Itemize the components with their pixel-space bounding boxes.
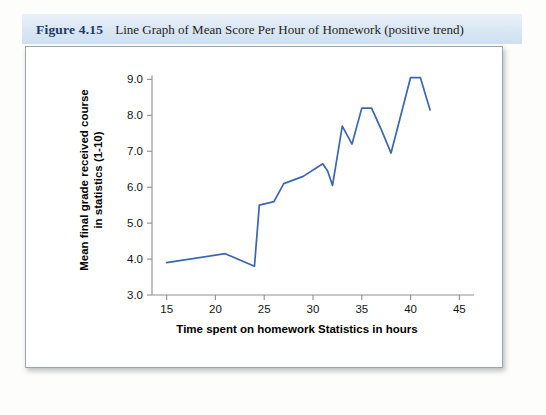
y-axis-title-line-2: in statistics (1-10)	[92, 131, 104, 228]
x-axis-title: Time spent on homework Statistics in hou…	[176, 323, 417, 335]
figure-caption: Line Graph of Mean Score Per Hour of Hom…	[115, 22, 464, 38]
y-tick-label: 5.0	[127, 217, 143, 229]
y-tick-label: 8.0	[127, 109, 143, 121]
x-tick-label: 25	[258, 303, 271, 315]
y-tick-label: 4.0	[127, 253, 143, 265]
y-tick-label: 7.0	[127, 145, 143, 157]
figure-header-band: Figure 4.15 Line Graph of Mean Score Per…	[22, 14, 522, 44]
data-series-group	[167, 78, 430, 267]
data-line	[167, 78, 430, 267]
figure-container: Figure 4.15 Line Graph of Mean Score Per…	[22, 14, 522, 386]
x-axis: 15202530354045	[152, 295, 474, 315]
figure-number: Figure 4.15	[36, 22, 103, 38]
x-tick-label: 45	[453, 303, 466, 315]
y-axis-title-line-1: Mean final grade received course	[78, 89, 90, 271]
x-tick-label: 30	[307, 303, 320, 315]
y-tick-label: 3.0	[127, 289, 143, 301]
y-axis: 3.04.05.06.07.08.09.0	[127, 73, 152, 301]
x-tick-label: 35	[355, 303, 368, 315]
x-tick-label: 20	[209, 303, 222, 315]
x-tick-label: 15	[160, 303, 173, 315]
plot-panel: 3.04.05.06.07.08.09.0 15202530354045 Tim…	[25, 46, 503, 368]
chart-svg: 3.04.05.06.07.08.09.0 15202530354045 Tim…	[26, 47, 502, 367]
y-tick-label: 9.0	[127, 73, 143, 85]
x-tick-label: 40	[404, 303, 417, 315]
line-chart: 3.04.05.06.07.08.09.0 15202530354045 Tim…	[26, 47, 502, 367]
y-tick-label: 6.0	[127, 181, 143, 193]
